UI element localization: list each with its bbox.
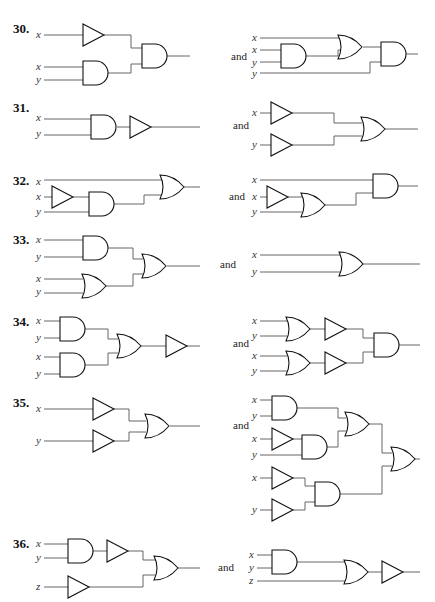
input-label: x [35, 402, 41, 414]
input-label: y [35, 205, 41, 217]
input-label: y [35, 434, 41, 446]
input-label: x [251, 173, 257, 185]
connector-and: and [220, 258, 236, 270]
input-label: x [35, 60, 41, 72]
input-label: x [35, 314, 41, 326]
problem-number: 32. [13, 173, 29, 188]
not-gate [325, 318, 346, 340]
input-label: x [251, 471, 257, 483]
input-label: y [35, 250, 41, 262]
or-gate [117, 334, 141, 358]
problem-34: 34. x y x y and x y x y [13, 314, 420, 379]
problem-35: 35. x y and x y x y x y [13, 393, 420, 521]
input-label: x [35, 233, 41, 245]
or-gate [338, 35, 362, 59]
input-label: x [251, 43, 257, 55]
input-label: x [248, 548, 254, 560]
and-gate [60, 317, 85, 341]
or-gate [145, 414, 169, 438]
input-label: x [251, 393, 257, 405]
problem-36: 36. x y z and x y z [13, 536, 420, 598]
not-gate [272, 467, 293, 489]
not-gate [271, 102, 292, 124]
problem-30: 30. x x y and x x y y [13, 21, 418, 85]
input-label: x [251, 106, 257, 118]
problem-number: 36. [13, 536, 29, 551]
connector-and: and [233, 337, 249, 349]
not-gate [130, 116, 151, 138]
input-label: y [248, 561, 254, 573]
or-gate [142, 254, 166, 278]
input-label: y [251, 265, 257, 277]
input-label: y [251, 329, 257, 341]
and-gate [60, 353, 85, 377]
input-label: y [35, 551, 41, 563]
or-gate [82, 274, 106, 298]
and-gate [89, 192, 114, 216]
problem-number: 33. [13, 232, 29, 247]
connector-and: and [218, 561, 234, 573]
input-label: x [35, 190, 41, 202]
and-gate [315, 482, 340, 506]
input-label: x [35, 350, 41, 362]
or-gate [344, 560, 368, 584]
input-label: y [251, 67, 257, 79]
and-gate [374, 333, 399, 357]
and-gate [302, 435, 327, 459]
or-gate [301, 193, 325, 217]
problem-number: 30. [13, 21, 29, 36]
and-gate [381, 42, 406, 66]
input-label: y [251, 409, 257, 421]
problem-number: 34. [13, 314, 29, 329]
not-gate [267, 186, 288, 208]
and-gate [83, 236, 108, 260]
not-gate [382, 561, 403, 583]
input-label: y [251, 205, 257, 217]
and-gate [373, 174, 398, 198]
or-gate [160, 175, 184, 199]
input-label: y [251, 448, 257, 460]
and-gate [91, 115, 116, 139]
input-label: x [251, 432, 257, 444]
and-gate [142, 44, 167, 68]
not-gate [68, 576, 89, 598]
not-gate [83, 24, 104, 46]
connector-and: and [231, 50, 247, 62]
input-label: y [35, 331, 41, 343]
or-gate [154, 556, 178, 580]
logic-circuit-exercises: 30. x x y and x x y y 31. x y and x y 32… [0, 0, 435, 602]
connector-and: and [229, 190, 245, 202]
input-label: y [251, 138, 257, 150]
input-label: y [251, 364, 257, 376]
connector-and: and [233, 419, 249, 431]
and-gate [68, 539, 93, 563]
and-gate [272, 550, 297, 574]
input-label: x [35, 28, 41, 40]
input-label: x [251, 314, 257, 326]
or-gate [286, 351, 310, 375]
connector-and: and [233, 119, 249, 131]
not-gate [93, 430, 114, 452]
problem-number: 31. [13, 100, 29, 115]
input-label: y [35, 127, 41, 139]
problem-33: 33. x y x y and x y [13, 232, 420, 298]
input-label: x [35, 272, 41, 284]
or-gate [391, 447, 415, 471]
or-gate [286, 317, 310, 341]
input-label: x [35, 537, 41, 549]
problem-32: 32. x x y and x x y [13, 173, 418, 217]
input-label: x [251, 190, 257, 202]
or-gate [339, 252, 363, 276]
input-label: y [35, 285, 41, 297]
not-gate [166, 335, 187, 357]
or-gate [345, 412, 369, 436]
input-label: x [251, 248, 257, 260]
not-gate [272, 499, 293, 521]
input-label: z [35, 580, 41, 592]
and-gate [83, 61, 108, 85]
input-label: y [35, 367, 41, 379]
and-gate [272, 396, 297, 420]
problem-31: 31. x y and x y [13, 100, 418, 156]
input-label: x [35, 175, 41, 187]
not-gate [93, 398, 114, 420]
